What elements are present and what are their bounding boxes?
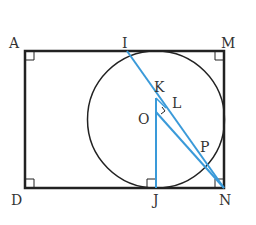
right-angle-J: [147, 179, 156, 188]
segment-ON: [156, 112, 224, 188]
label-M: M: [221, 35, 235, 51]
rectangle-AMND: [25, 51, 224, 188]
right-angle-A: [25, 51, 34, 60]
label-D: D: [11, 192, 22, 208]
right-angle-M: [215, 51, 224, 60]
label-J: J: [151, 192, 159, 208]
label-A: A: [8, 35, 20, 51]
label-L: L: [172, 95, 181, 111]
label-K: K: [154, 79, 165, 95]
right-angle-D: [25, 179, 34, 188]
label-N: N: [219, 192, 231, 208]
right-angle-L: [161, 107, 165, 114]
geometry-diagram: A I M D J N K L O P: [0, 0, 256, 225]
label-I: I: [122, 35, 128, 51]
label-P: P: [200, 139, 209, 155]
label-O: O: [138, 111, 149, 127]
